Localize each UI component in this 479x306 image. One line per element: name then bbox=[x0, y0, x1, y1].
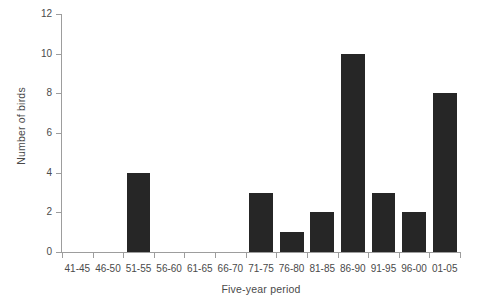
x-axis-tick bbox=[123, 253, 124, 258]
x-axis-tick bbox=[276, 253, 277, 258]
x-axis-line bbox=[61, 252, 461, 253]
x-axis-category-label: 56-60 bbox=[154, 262, 185, 275]
bar bbox=[127, 173, 151, 252]
x-axis-category-label: 46-50 bbox=[93, 262, 124, 275]
y-axis-tick-label: 10 bbox=[41, 47, 52, 61]
y-axis-tick-label: 12 bbox=[41, 7, 52, 21]
x-axis-tick bbox=[368, 253, 369, 258]
x-axis-category-label: 71-75 bbox=[246, 262, 277, 275]
bar bbox=[433, 93, 457, 252]
plot-area: 024681012 bbox=[62, 14, 460, 252]
x-axis-tick bbox=[246, 253, 247, 258]
y-axis-tick: 12 bbox=[56, 14, 61, 15]
y-axis-tick: 2 bbox=[56, 212, 61, 213]
x-axis-category-label: 91-95 bbox=[368, 262, 399, 275]
x-axis-category-label: 86-90 bbox=[338, 262, 369, 275]
y-axis-tick: 8 bbox=[56, 93, 61, 94]
x-axis-title: Five-year period bbox=[62, 282, 460, 296]
bar bbox=[310, 212, 334, 252]
y-axis-tick-label: 6 bbox=[46, 126, 52, 140]
x-axis-category-label: 76-80 bbox=[276, 262, 307, 275]
y-axis-tick: 0 bbox=[56, 252, 61, 253]
y-axis-line bbox=[61, 14, 62, 253]
x-axis-tick bbox=[399, 253, 400, 258]
x-axis-tick bbox=[184, 253, 185, 258]
bar bbox=[402, 212, 426, 252]
y-axis-tick: 4 bbox=[56, 173, 61, 174]
bar bbox=[280, 232, 304, 252]
x-axis-category-label: 01-05 bbox=[429, 262, 460, 275]
x-axis-category-label: 51-55 bbox=[123, 262, 154, 275]
bar bbox=[249, 193, 273, 253]
x-axis-category-label: 66-70 bbox=[215, 262, 246, 275]
bar bbox=[372, 193, 396, 253]
bar bbox=[341, 54, 365, 252]
y-axis-title: Number of birds bbox=[14, 0, 28, 252]
x-axis-tick bbox=[215, 253, 216, 258]
y-axis-tick: 10 bbox=[56, 54, 61, 55]
x-axis-category-label: 81-85 bbox=[307, 262, 338, 275]
bar-chart-figure: Number of birds 024681012 41-4546-5051-5… bbox=[0, 0, 479, 306]
x-axis-tick bbox=[93, 253, 94, 258]
x-axis-category-label: 61-65 bbox=[184, 262, 215, 275]
x-axis-category-label: 96-00 bbox=[399, 262, 430, 275]
y-axis-tick: 6 bbox=[56, 133, 61, 134]
x-axis-tick bbox=[154, 253, 155, 258]
x-axis-tick bbox=[429, 253, 430, 258]
y-axis-tick-label: 4 bbox=[46, 166, 52, 180]
y-axis-tick-label: 2 bbox=[46, 205, 52, 219]
x-axis-category-label: 41-45 bbox=[62, 262, 93, 275]
x-axis-tick bbox=[307, 253, 308, 258]
y-axis-tick-label: 0 bbox=[46, 245, 52, 259]
x-axis-tick bbox=[338, 253, 339, 258]
x-axis-tick bbox=[62, 253, 63, 258]
x-axis-tick bbox=[460, 253, 461, 258]
y-axis-tick-label: 8 bbox=[46, 86, 52, 100]
